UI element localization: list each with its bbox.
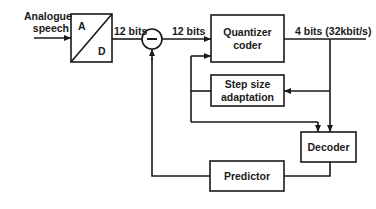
subtractor-output-label: 12 bits	[172, 25, 205, 37]
adc-label-a: A	[78, 20, 86, 32]
decoder-label: Decoder	[301, 132, 356, 162]
predictor-label: Predictor	[210, 161, 284, 191]
stepsize-label: Step size adaptation	[211, 75, 284, 106]
input-label: Analogue speech	[24, 10, 72, 34]
output-label: 4 bits (32kbit/s)	[295, 25, 371, 37]
decoder-to-predictor-line	[284, 162, 330, 176]
adc-label-d: D	[98, 45, 106, 57]
predictor-to-subtractor-line	[152, 58, 210, 176]
quantizer-label: Quantizer coder	[211, 15, 284, 62]
adc-output-label: 12 bits	[114, 25, 147, 37]
